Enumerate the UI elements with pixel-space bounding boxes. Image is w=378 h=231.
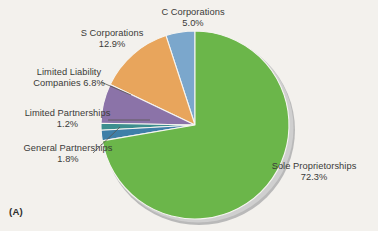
slice-label-sole-proprietorships: Sole Proprietorships 72.3% [255, 161, 373, 184]
slice-label-name: General Partnerships [24, 143, 113, 153]
slice-label-c-corporations: C Corporations 5.0% [139, 7, 247, 30]
slice-label-percent: 1.8% [0, 154, 136, 165]
pie-chart-figure: C Corporations 5.0% S Corporations 12.9%… [0, 0, 378, 231]
slice-label-name: Sole Proprietorships [272, 161, 357, 171]
slice-label-percent: 72.3% [255, 172, 373, 183]
slice-label-name: S Corporations [81, 28, 144, 38]
slice-label-name: C Corporations [161, 7, 224, 17]
panel-tag: (A) [9, 206, 23, 217]
slice-label-s-corporations: S Corporations 12.9% [57, 28, 167, 51]
slice-label-name: Limited Partnerships [25, 108, 111, 118]
slice-label-general-partnerships: General Partnerships 1.8% [0, 143, 136, 166]
slice-label-percent: Companies 6.8% [8, 78, 130, 89]
slice-label-percent: 12.9% [57, 39, 167, 50]
slice-label-percent: 1.2% [2, 119, 133, 130]
slice-label-limited-liability-companies: Limited Liability Companies 6.8% [8, 67, 130, 90]
slice-label-limited-partnerships: Limited Partnerships 1.2% [2, 108, 133, 131]
slice-label-name: Limited Liability [37, 67, 101, 77]
